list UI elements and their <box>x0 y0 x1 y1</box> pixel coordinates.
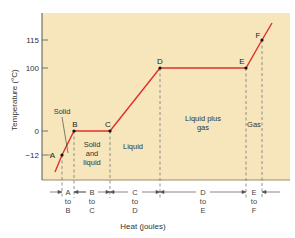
svg-text:to: to <box>89 197 95 206</box>
svg-text:C: C <box>89 206 95 215</box>
svg-text:C: C <box>132 188 138 197</box>
svg-text:F: F <box>252 206 257 215</box>
point-label-c: C <box>105 120 111 129</box>
region-label-liquid: Liquid <box>123 142 143 151</box>
svg-text:A: A <box>65 188 70 197</box>
svg-text:D: D <box>132 206 138 215</box>
region-label-solid: Solid <box>54 107 71 116</box>
heating-curve-chart: 115 100 0 −12 Temperature (°C) A B C D E… <box>0 0 295 238</box>
region-label-solid-liquid-1: Solid <box>84 140 101 149</box>
point-label-b: B <box>72 120 77 129</box>
plot-area <box>42 13 290 180</box>
y-axis-title: Temperature (°C) <box>10 69 19 131</box>
svg-text:B: B <box>65 206 70 215</box>
point-label-e: E <box>239 57 244 66</box>
point-e <box>244 66 247 69</box>
region-label-gas: Gas <box>247 120 261 129</box>
region-label-solid-liquid-3: liquid <box>83 158 101 167</box>
tick-0: 0 <box>35 127 40 136</box>
svg-text:E: E <box>251 188 256 197</box>
svg-text:B: B <box>89 188 94 197</box>
point-label-a: A <box>50 151 56 160</box>
svg-text:to: to <box>251 197 257 206</box>
svg-text:to: to <box>132 197 138 206</box>
point-label-f: F <box>256 31 261 40</box>
region-label-liquid-gas-2: gas <box>197 123 209 132</box>
svg-text:to: to <box>65 197 71 206</box>
region-label-liquid-gas-1: Liquid plus <box>185 114 221 123</box>
region-label-solid-liquid-2: and <box>86 149 99 158</box>
svg-text:to: to <box>200 197 206 206</box>
x-axis-title: Heat (joules) <box>120 222 166 231</box>
point-label-d: D <box>157 57 163 66</box>
point-c <box>108 129 111 132</box>
svg-text:E: E <box>200 206 205 215</box>
tick-minus-12: −12 <box>25 151 39 160</box>
point-b <box>72 129 75 132</box>
svg-text:D: D <box>200 188 206 197</box>
tick-100: 100 <box>26 64 40 73</box>
tick-115: 115 <box>26 36 39 45</box>
interval-arrows <box>50 191 280 194</box>
point-a <box>60 153 63 156</box>
point-d <box>158 66 161 69</box>
point-f <box>260 38 263 41</box>
